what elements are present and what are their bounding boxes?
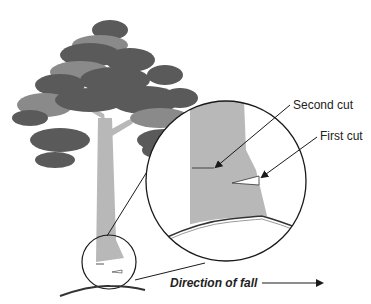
tree-trunk — [84, 104, 136, 262]
direction-of-fall-label: Direction of fall — [170, 276, 257, 290]
ground-line — [60, 286, 145, 296]
tree-felling-diagram — [0, 0, 371, 304]
second-cut-label: Second cut — [293, 98, 353, 112]
first-cut-label: First cut — [320, 129, 363, 143]
